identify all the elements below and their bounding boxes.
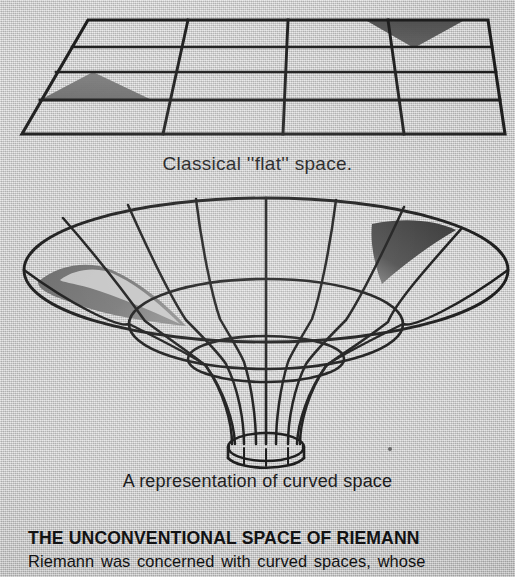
curved-shaded-wedge-right <box>371 220 456 284</box>
flat-grid-shaded-triangle-topright <box>367 21 463 48</box>
ink-speck <box>388 447 392 451</box>
article-headline: THE UNCONVENTIONAL SPACE OF RIEMANN <box>28 528 498 549</box>
caption-curved-space: A representation of curved space <box>0 471 515 492</box>
article-block: THE UNCONVENTIONAL SPACE OF RIEMANN Riem… <box>28 528 498 571</box>
flat-grid-col-line-2 <box>283 20 288 134</box>
flat-space-diagram <box>0 0 515 150</box>
figure-page: Classical ''flat'' space. <box>0 0 515 577</box>
article-body-line-1: Riemann was concerned with curved spaces… <box>28 551 498 571</box>
curved-space-diagram <box>0 192 515 477</box>
flat-grid-col-line-1 <box>163 20 188 134</box>
caption-flat-space: Classical ''flat'' space. <box>0 153 515 175</box>
